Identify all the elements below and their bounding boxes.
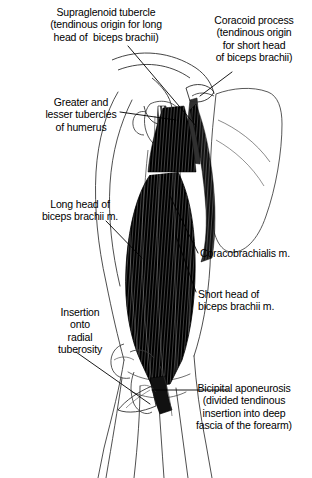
label-short-head-biceps: Short head of biceps brachii m. [198, 288, 312, 313]
label-long-head-biceps: Long head of biceps brachii m. [10, 198, 150, 223]
label-humerus-tubercles: Greater and lesser tubercles of humerus [12, 96, 150, 133]
label-coracobrachialis: Coracobrachialis m. [200, 247, 312, 259]
label-coracoid-process: Coracoid process (tendinous origin for s… [196, 14, 312, 64]
label-bicipital-aponeurosis: Bicipital aponeurosis (divided tendinous… [176, 382, 312, 432]
label-supraglenoid-tubercle: Supraglenoid tubercle (tendinous origin … [18, 6, 194, 43]
leader-insertion [76, 352, 150, 404]
label-radial-tuberosity-insertion: Insertion onto radial tuberosity [22, 306, 138, 356]
distal-tendon-group [118, 376, 172, 414]
